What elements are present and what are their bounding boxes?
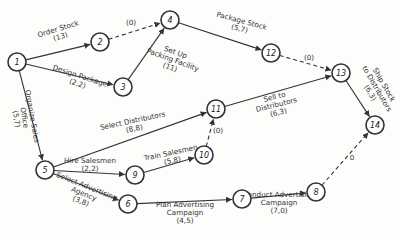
activity-label-5-11: Select Distributors(8,8) xyxy=(99,109,168,140)
node-number: 2 xyxy=(97,38,102,47)
diagram-svg: Order Stock(13)Design Package(2,2)(0)Set… xyxy=(0,0,400,240)
event-node-2: 2 xyxy=(91,33,109,51)
event-node-3: 3 xyxy=(114,78,132,96)
activity-label-4-12: Package Stock(5,7) xyxy=(213,10,268,40)
node-number: 6 xyxy=(125,200,130,209)
pert-network-diagram: Order Stock(13)Design Package(2,2)(0)Set… xyxy=(0,0,400,240)
node-number: 8 xyxy=(313,188,318,197)
event-node-4: 4 xyxy=(161,11,179,29)
node-number: 10 xyxy=(199,151,209,160)
node-number: 12 xyxy=(266,49,276,58)
event-node-12: 12 xyxy=(262,44,280,62)
activity-arrow-1-2 xyxy=(26,44,91,60)
activity-arrow-8-14 xyxy=(322,133,368,186)
node-number: 4 xyxy=(167,16,172,25)
activity-label-11-13: Sell toDistributors(6,3) xyxy=(253,87,300,121)
event-node-14: 14 xyxy=(366,116,384,134)
node-number: 11 xyxy=(211,105,221,114)
node-number: 1 xyxy=(14,58,19,67)
activity-label-5-9: Hire Salesmen(2,2) xyxy=(64,156,116,173)
activity-label-7-8: Conduct AdvertisingCampaign(7,0) xyxy=(243,190,316,215)
activity-label-10-11: (0) xyxy=(213,126,223,135)
activity-labels: Order Stock(13)Design Package(2,2)(0)Set… xyxy=(7,10,400,225)
event-node-1: 1 xyxy=(8,53,26,71)
event-node-5: 5 xyxy=(36,161,54,179)
activity-label-2-4: (0) xyxy=(126,18,136,27)
event-node-9: 9 xyxy=(126,166,144,184)
activity-label-1-2: Order Stock(13) xyxy=(36,18,83,47)
event-node-13: 13 xyxy=(332,64,350,82)
activity-label-5-6: Select AdvertisingAgency(3,8) xyxy=(49,170,119,218)
activity-label-1-3: Design Package(2,2) xyxy=(49,63,109,97)
event-node-6: 6 xyxy=(119,195,137,213)
event-node-8: 8 xyxy=(307,183,325,201)
event-node-7: 7 xyxy=(233,190,251,208)
activity-label-9-10: Train Salesmen(5,8) xyxy=(142,143,200,171)
activity-label-6-7: Plan AdvertisingCampaign(4,5) xyxy=(156,200,214,225)
node-number: 9 xyxy=(132,171,137,180)
event-node-10: 10 xyxy=(195,146,213,164)
activity-label-8-14: 0 xyxy=(350,153,355,162)
node-number: 3 xyxy=(120,83,125,92)
node-number: 5 xyxy=(42,166,47,175)
event-nodes: 1234567891011121314 xyxy=(8,11,384,213)
node-number: 14 xyxy=(370,121,380,130)
node-number: 13 xyxy=(336,69,346,78)
activity-label-12-13: (0) xyxy=(304,53,314,62)
event-node-11: 11 xyxy=(207,100,225,118)
activity-label-1-5: Organize SalesOffice(5,7) xyxy=(7,89,41,146)
activity-label-13-14: Ship Stockto Distributors(6,3) xyxy=(353,60,400,117)
